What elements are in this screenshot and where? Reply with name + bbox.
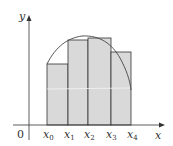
svg-text:x2: x2 xyxy=(84,128,95,142)
rectangle-1 xyxy=(47,64,68,125)
x-axis-label: x xyxy=(155,129,162,142)
svg-text:x3: x3 xyxy=(106,128,117,142)
tick-x3-sub: 3 xyxy=(112,134,116,142)
rectangle-2 xyxy=(68,40,88,125)
riemann-sum-diagram: y x 0 x0 x1 x2 x3 x4 xyxy=(0,0,173,146)
origin-label: 0 xyxy=(17,128,24,141)
svg-text:x0: x0 xyxy=(43,128,54,142)
y-axis-label: y xyxy=(18,10,26,23)
tick-labels: x0 x1 x2 x3 x4 xyxy=(43,128,138,142)
tick-x1-sub: 1 xyxy=(70,134,74,142)
tick-x2-sub: 2 xyxy=(90,134,94,142)
rectangles xyxy=(47,38,131,125)
svg-text:x1: x1 xyxy=(64,128,75,142)
svg-text:x4: x4 xyxy=(127,128,138,142)
x-axis-arrow-icon xyxy=(159,123,165,128)
tick-x0-sub: 0 xyxy=(49,134,53,142)
y-axis-arrow-icon xyxy=(27,15,32,21)
tick-x4-sub: 4 xyxy=(133,134,138,142)
rectangle-3 xyxy=(88,38,111,125)
